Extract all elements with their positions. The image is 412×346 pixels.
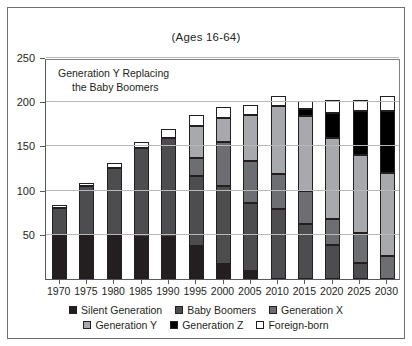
y-tick-label: 100 <box>17 186 35 197</box>
bar-segment[interactable] <box>325 219 340 246</box>
legend-swatch-icon <box>83 321 91 329</box>
y-tick-label: 250 <box>17 53 35 64</box>
bar-segment[interactable] <box>134 148 149 236</box>
bar-segment[interactable] <box>380 111 395 173</box>
legend-item[interactable]: Silent Generation <box>69 304 162 316</box>
x-tick-mark <box>141 280 142 284</box>
legend-item[interactable]: Generation Z <box>170 319 243 331</box>
bar-segment[interactable] <box>298 101 313 109</box>
bar-segment[interactable] <box>216 118 231 142</box>
bar-group[interactable] <box>243 58 258 279</box>
bar-segment[interactable] <box>161 129 176 138</box>
bar-segment[interactable] <box>161 138 176 238</box>
bar-segment[interactable] <box>380 173 395 256</box>
bar-segment[interactable] <box>271 106 286 174</box>
legend-item[interactable]: Generation Y <box>83 319 157 331</box>
bar-segment[interactable] <box>79 183 94 187</box>
y-tick-label: 50 <box>23 230 35 241</box>
annotation-line-1: Generation Y Replacing <box>58 67 169 79</box>
y-axis: 50100150200250 <box>8 59 41 280</box>
y-tick-label: 200 <box>17 97 35 108</box>
bar-segment[interactable] <box>243 105 258 116</box>
bar-group[interactable] <box>353 58 368 279</box>
bar-segment[interactable] <box>271 209 286 279</box>
bar-segment[interactable] <box>380 96 395 111</box>
bar-segment[interactable] <box>353 155 368 233</box>
bar-segment[interactable] <box>107 168 122 236</box>
x-tick-label: 2010 <box>265 286 288 297</box>
x-axis: 1970197519801985199019952000200520102015… <box>45 280 400 302</box>
bar-group[interactable] <box>271 58 286 279</box>
legend-label: Silent Generation <box>81 304 162 316</box>
bar-segment[interactable] <box>243 203 258 271</box>
bar-segment[interactable] <box>243 115 258 160</box>
bar-segment[interactable] <box>52 208 67 235</box>
legend-item[interactable]: Foreign-born <box>256 319 328 331</box>
bar-segment[interactable] <box>52 205 67 209</box>
bar-segment[interactable] <box>189 115 204 126</box>
x-tick-mark <box>195 280 196 284</box>
gridline <box>46 190 399 191</box>
legend-swatch-icon <box>170 321 178 329</box>
bar-segment[interactable] <box>161 237 176 279</box>
bar-segment[interactable] <box>243 161 258 203</box>
annotation-line-2: the Baby Boomers <box>58 80 238 94</box>
x-tick-mark <box>277 280 278 284</box>
bar-segment[interactable] <box>189 158 204 177</box>
chart-legend: Silent GenerationBaby BoomersGeneration … <box>8 304 404 334</box>
bar-segment[interactable] <box>189 246 204 279</box>
bar-segment[interactable] <box>325 100 340 112</box>
bar-segment[interactable] <box>298 116 313 190</box>
bar-group[interactable] <box>325 58 340 279</box>
x-tick-label: 2005 <box>238 286 261 297</box>
legend-swatch-icon <box>175 306 183 314</box>
bar-segment[interactable] <box>380 256 395 279</box>
bar-segment[interactable] <box>353 233 368 263</box>
bar-segment[interactable] <box>353 263 368 279</box>
x-tick-label: 2020 <box>320 286 343 297</box>
bar-segment[interactable] <box>298 109 313 116</box>
bar-segment[interactable] <box>298 191 313 225</box>
chart-frame: (Ages 16-64) 50100150200250 Generation Y… <box>7 7 405 339</box>
legend-swatch-icon <box>69 306 77 314</box>
chart-title: (Ages 16-64) <box>8 31 404 43</box>
gridline <box>46 101 399 102</box>
bar-segment[interactable] <box>189 126 204 158</box>
x-tick-mark <box>386 280 387 284</box>
chart-annotation: Generation Y Replacing the Baby Boomers <box>58 66 238 94</box>
bar-segment[interactable] <box>134 237 149 279</box>
legend-row-1: Silent GenerationBaby BoomersGeneration … <box>8 304 404 316</box>
legend-item[interactable]: Generation X <box>269 304 343 316</box>
bar-segment[interactable] <box>52 235 67 279</box>
legend-label: Foreign-born <box>268 319 328 331</box>
bar-segment[interactable] <box>107 163 122 167</box>
x-tick-mark <box>59 280 60 284</box>
bar-segment[interactable] <box>325 245 340 279</box>
gridline <box>46 145 399 146</box>
bar-group[interactable] <box>380 58 395 279</box>
x-tick-label: 1980 <box>102 286 125 297</box>
bar-segment[interactable] <box>298 224 313 279</box>
bar-segment[interactable] <box>107 236 122 279</box>
bar-segment[interactable] <box>79 186 94 235</box>
bar-segment[interactable] <box>325 113 340 138</box>
x-tick-mark <box>113 280 114 284</box>
bar-segment[interactable] <box>216 142 231 186</box>
bar-group[interactable] <box>298 58 313 279</box>
bar-segment[interactable] <box>216 107 231 118</box>
bar-segment[interactable] <box>325 138 340 219</box>
x-tick-label: 2030 <box>375 286 398 297</box>
x-tick-label: 2000 <box>211 286 234 297</box>
x-tick-mark <box>304 280 305 284</box>
bar-segment[interactable] <box>216 264 231 279</box>
x-tick-mark <box>86 280 87 284</box>
bar-segment[interactable] <box>271 174 286 209</box>
bar-segment[interactable] <box>353 111 368 155</box>
legend-label: Generation X <box>281 304 343 316</box>
bar-segment[interactable] <box>243 271 258 279</box>
bar-segment[interactable] <box>216 186 231 264</box>
x-tick-label: 1985 <box>129 286 152 297</box>
legend-item[interactable]: Baby Boomers <box>175 304 256 316</box>
bar-segment[interactable] <box>79 235 94 279</box>
bar-segment[interactable] <box>189 176 204 246</box>
